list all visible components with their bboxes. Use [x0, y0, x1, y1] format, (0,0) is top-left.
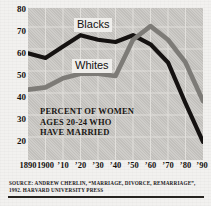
- y-tick-70: 70: [4, 27, 26, 36]
- x-tick-1940: ’40: [110, 160, 121, 170]
- chart-figure: 80 70 60 50 40 30 20: [0, 0, 211, 206]
- x-tick-1980: ’80: [180, 160, 191, 170]
- x-tick-1890: 1890: [20, 160, 37, 170]
- annotation-line-2: AGES 20-24 WHO: [40, 117, 134, 128]
- x-tick-1900: 1900: [37, 160, 54, 170]
- y-axis-labels: 80 70 60 50 40 30 20: [0, 0, 26, 165]
- series-label-whites: Whites: [72, 59, 112, 73]
- x-tick-1990: ’90: [196, 160, 207, 170]
- x-tick-1910: ’10: [57, 160, 68, 170]
- bottom-rule: [8, 196, 204, 198]
- y-tick-80: 80: [4, 5, 26, 14]
- source-note: SOURCE: ANDREW CHERLIN, “MARRIAGE, DIVOR…: [9, 180, 195, 193]
- x-tick-1950: ’50: [127, 160, 138, 170]
- y-tick-40: 40: [4, 93, 26, 102]
- source-line-1: SOURCE: ANDREW CHERLIN, “MARRIAGE, DIVOR…: [9, 180, 195, 187]
- x-tick-1970: ’70: [162, 160, 173, 170]
- annotation-line-1: PERCENT OF WOMEN: [40, 106, 134, 117]
- x-tick-1960: ’60: [145, 160, 156, 170]
- series-line-blacks: [28, 26, 203, 101]
- y-tick-50: 50: [4, 71, 26, 80]
- chart-annotation: PERCENT OF WOMEN AGES 20-24 WHO HAVE MAR…: [40, 106, 134, 138]
- y-tick-20: 20: [4, 137, 26, 146]
- x-tick-1930: ’30: [92, 160, 103, 170]
- source-line-2: 1992. HARVARD UNIVERSITY PRESS: [9, 187, 195, 194]
- y-tick-30: 30: [4, 115, 26, 124]
- annotation-line-3: HAVE MARRIED: [40, 127, 134, 138]
- x-tick-1920: ’20: [75, 160, 86, 170]
- series-label-blacks: Blacks: [74, 18, 112, 32]
- x-axis-labels: 1890 1900 ’10 ’20 ’30 ’40 ’50 ’60 ’70 ’8…: [0, 160, 211, 176]
- y-tick-60: 60: [4, 49, 26, 58]
